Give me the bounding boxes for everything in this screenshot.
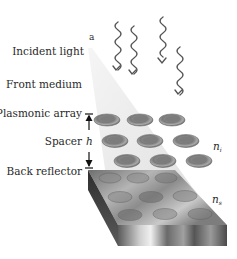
label-front-medium: Front medium — [6, 78, 82, 90]
back-reflector-slab — [88, 170, 227, 246]
particle-row-3 — [114, 155, 212, 168]
wave-icon — [158, 17, 166, 63]
label-index-substrate: ns — [212, 193, 222, 206]
label-incident-light: Incident light — [12, 45, 84, 57]
label-plasmonic-array: Plasmonic array — [0, 107, 82, 119]
index-substrate-symbol: n — [212, 193, 219, 205]
label-back-reflector: Back reflector — [7, 165, 82, 177]
index-spacer-subscript: i — [220, 146, 222, 153]
wave-icon — [113, 22, 121, 70]
particle-row-1 — [94, 114, 185, 126]
wave-icon — [175, 47, 183, 95]
particle-row-2 — [102, 135, 199, 148]
panel-letter: a — [89, 32, 94, 42]
wave-icon — [129, 26, 137, 74]
index-substrate-subscript: s — [219, 199, 222, 206]
label-index-spacer: ni — [213, 140, 222, 153]
label-height-h: h — [86, 135, 93, 147]
diagram-canvas — [0, 0, 237, 259]
label-spacer: Spacer — [45, 135, 82, 147]
incident-light-waves — [113, 17, 183, 95]
reflector-front-face — [118, 225, 227, 246]
index-spacer-symbol: n — [213, 140, 220, 152]
